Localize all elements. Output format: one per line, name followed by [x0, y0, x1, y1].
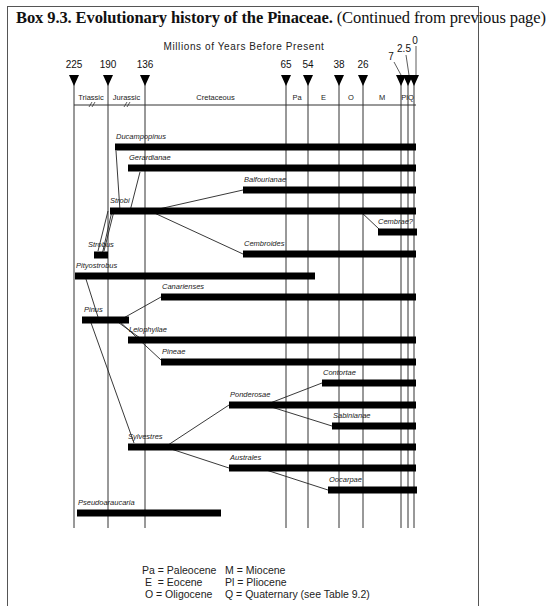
legend-item: Pa = Paleocene	[142, 564, 216, 576]
legend-item: O = Oligocene	[142, 588, 216, 600]
lineage-link	[130, 172, 140, 211]
tick-marker	[103, 75, 113, 86]
legend-item: M = Miocene	[225, 564, 370, 576]
legend-right-column: M = Miocene Pl = Pliocene Q = Quaternary…	[225, 564, 370, 600]
taxon-label: Strobi	[110, 196, 130, 205]
taxon-label: Canarienses	[162, 282, 204, 291]
taxon-label: Ducampopinus	[116, 132, 166, 141]
taxon-label: Leiophyllae	[129, 325, 167, 334]
period-label: Q	[408, 93, 414, 102]
tick-label: 38	[333, 59, 345, 70]
tick-label: 26	[357, 59, 369, 70]
tick-leader	[394, 62, 401, 75]
taxon-bar	[243, 251, 416, 258]
taxon-bar	[128, 444, 416, 451]
taxon-bar	[322, 380, 416, 387]
tick-marker	[140, 75, 150, 86]
taxon-label: Oocarpae	[329, 475, 362, 484]
taxon-label: Cembrae?	[378, 217, 414, 226]
taxon-label: Sabinianae	[333, 411, 371, 420]
tick-label: 7	[388, 51, 394, 62]
taxon-label: Contortae	[323, 368, 356, 377]
taxon-bar	[75, 273, 315, 280]
taxon-label: Strobus	[88, 240, 114, 249]
taxon-label: Pinus	[84, 305, 103, 314]
period-label: Pa	[292, 93, 302, 102]
taxon-bar	[82, 317, 129, 324]
period-label: O	[348, 93, 354, 102]
period-label: Jurassic	[113, 93, 141, 102]
period-label: E	[321, 93, 326, 102]
taxon-bar	[229, 402, 416, 409]
taxon-bar	[77, 510, 221, 517]
period-label: Cretaceous	[196, 93, 235, 102]
lineage-link	[90, 320, 134, 443]
axis-title: Millions of Years Before Present	[164, 41, 325, 52]
lineage-link	[150, 211, 243, 254]
taxon-label: Pseudoaraucaria	[78, 498, 135, 507]
taxon-label: Gerardianae	[129, 153, 171, 162]
taxon-bar	[328, 487, 417, 494]
tick-label: 190	[100, 59, 117, 70]
legend-item: Pl = Pliocene	[225, 576, 370, 588]
taxon-bar	[161, 359, 416, 366]
legend-item: E = Eocene	[142, 576, 216, 588]
taxon-label: Balfourianae	[244, 175, 286, 184]
taxon-bar	[110, 208, 416, 215]
tick-marker	[69, 75, 79, 86]
taxon-bar	[128, 165, 416, 172]
taxon-bar	[128, 337, 416, 344]
taxon-label: Australes	[229, 453, 262, 462]
taxon-label: Sylvestres	[128, 432, 163, 441]
tick-marker	[334, 75, 344, 86]
legend-left-column: Pa = Paleocene E = Eocene O = Oligocene	[142, 564, 216, 600]
tick-marker	[358, 75, 368, 86]
legend-item: Q = Quaternary (see Table 9.2)	[225, 588, 370, 600]
lineage-link	[165, 405, 229, 447]
tick-label: 54	[302, 59, 314, 70]
taxon-bar	[161, 294, 416, 301]
tick-leader	[406, 55, 409, 75]
taxon-bar	[94, 252, 108, 259]
tick-label: 225	[66, 59, 83, 70]
taxon-bar	[332, 423, 416, 430]
tick-marker	[303, 75, 313, 86]
period-label: Triassic	[78, 93, 104, 102]
tick-marker	[281, 75, 291, 86]
tick-label: 2.5	[397, 43, 411, 54]
taxon-bar	[115, 144, 416, 151]
taxon-bar	[243, 187, 416, 194]
tick-label: 136	[137, 59, 154, 70]
tick-label: 0	[412, 35, 418, 46]
taxon-label: Pineae	[162, 347, 185, 356]
taxon-label: Ponderosae	[230, 390, 270, 399]
taxon-label: Pityostrobus	[76, 261, 118, 270]
taxon-label: Cembroides	[244, 239, 285, 248]
period-label: M	[379, 93, 385, 102]
tick-label: 65	[280, 59, 292, 70]
taxon-bar	[378, 229, 417, 236]
taxon-bar	[229, 465, 416, 472]
